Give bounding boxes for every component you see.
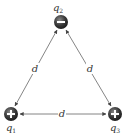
charge-label-q3: q3 <box>110 122 120 134</box>
charge-label-q2: q2 <box>53 2 63 14</box>
distance-label-left: d <box>32 63 38 74</box>
distance-label-bottom: d <box>59 108 65 119</box>
charge-label-q1: q1 <box>6 122 16 134</box>
charge-q1: q1 <box>4 107 18 134</box>
charge-q2: q2 <box>53 2 68 29</box>
charge-triangle-diagram: d d d q2 q1 q3 <box>0 0 132 140</box>
distance-label-right: d <box>87 63 93 74</box>
charge-q3: q3 <box>108 107 122 134</box>
